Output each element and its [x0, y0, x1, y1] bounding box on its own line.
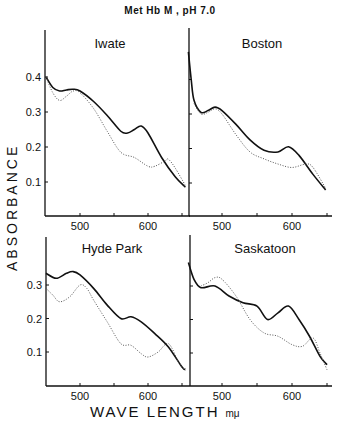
y-tick-label: 0.4	[26, 71, 41, 83]
dotted-curve	[194, 104, 326, 189]
solid-curve	[188, 263, 327, 365]
x-tick-label: 500	[213, 390, 231, 402]
solid-curve	[188, 52, 325, 190]
dotted-curve	[201, 277, 327, 370]
y-tick-label: 0.1	[26, 176, 41, 188]
dotted-curve	[46, 285, 185, 371]
x-tick-label: 600	[139, 220, 157, 232]
y-tick-label: 0.3	[27, 279, 42, 291]
y-tick-label: 0.2	[27, 313, 42, 325]
x-tick-label: 600	[283, 390, 301, 402]
panel-title: Boston	[242, 36, 282, 51]
x-tick-label: 600	[283, 220, 301, 232]
panel-title: Hyde Park	[82, 241, 143, 256]
chart-canvas: 0.10.20.30.4500600Iwate500600Boston0.10.…	[0, 0, 340, 431]
y-tick-label: 0.2	[26, 141, 41, 153]
x-tick-label: 500	[213, 220, 231, 232]
solid-curve	[46, 77, 185, 187]
y-tick-label: 0.1	[27, 346, 42, 358]
panel-saskatoon: 500600Saskatoon	[188, 235, 332, 402]
x-tick-label: 500	[71, 220, 89, 232]
panel-title: Saskatoon	[234, 241, 295, 256]
panel-boston: 500600Boston	[188, 28, 332, 232]
solid-curve	[46, 272, 185, 370]
y-tick-label: 0.3	[26, 106, 41, 118]
x-tick-label: 500	[71, 390, 89, 402]
panel-hyde-park: 0.10.20.3500600Hyde Park	[27, 237, 190, 402]
panel-iwate: 0.10.20.30.4500600Iwate	[26, 30, 190, 232]
dotted-curve	[46, 77, 185, 186]
panel-title: Iwate	[94, 36, 125, 51]
x-tick-label: 600	[139, 390, 157, 402]
